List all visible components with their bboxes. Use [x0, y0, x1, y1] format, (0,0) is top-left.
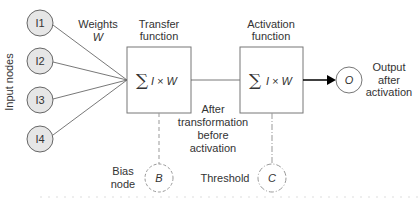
activation-formula: I × W — [266, 75, 294, 87]
svg-text:After: After — [201, 103, 225, 115]
svg-text:I2: I2 — [35, 55, 44, 67]
sum-icon: ∑ — [136, 70, 148, 90]
activation-title-1: Activation — [247, 18, 295, 30]
svg-text:activation: activation — [366, 86, 412, 98]
input-node-1: I1 — [27, 10, 53, 36]
neural-network-diagram: Input nodes I1 I2 I3 I4 Weights W Transf… — [0, 0, 419, 202]
activation-title-2: function — [252, 30, 291, 42]
transfer-title-1: Transfer — [139, 18, 180, 30]
svg-text:transformation: transformation — [178, 116, 248, 128]
bias-symbol: B — [155, 172, 162, 184]
svg-text:I1: I1 — [35, 17, 44, 29]
input-nodes-label: Input nodes — [3, 53, 15, 111]
threshold-label: Threshold — [201, 172, 250, 184]
weights-symbol: W — [93, 31, 105, 43]
svg-text:I4: I4 — [35, 133, 44, 145]
output-label: Output after activation — [366, 61, 412, 98]
svg-text:before: before — [197, 129, 228, 141]
svg-text:Output: Output — [372, 61, 405, 73]
bias-label-2: node — [111, 178, 135, 190]
weight-connections — [53, 25, 127, 135]
threshold-symbol: C — [268, 172, 276, 184]
arrowhead-icon — [327, 75, 336, 85]
bias-label-1: Bias — [112, 165, 134, 177]
input-node-2: I2 — [27, 48, 53, 74]
output-node: O — [336, 67, 362, 93]
weights-label: Weights — [78, 18, 118, 30]
svg-text:I3: I3 — [35, 94, 44, 106]
svg-text:O: O — [345, 74, 354, 86]
transfer-title-2: function — [140, 30, 179, 42]
transfer-formula: I × W — [151, 75, 179, 87]
svg-text:activation: activation — [190, 142, 236, 154]
input-node-3: I3 — [27, 87, 53, 113]
sum-icon: ∑ — [249, 70, 261, 90]
input-node-4: I4 — [27, 126, 53, 152]
svg-text:after: after — [378, 74, 400, 86]
